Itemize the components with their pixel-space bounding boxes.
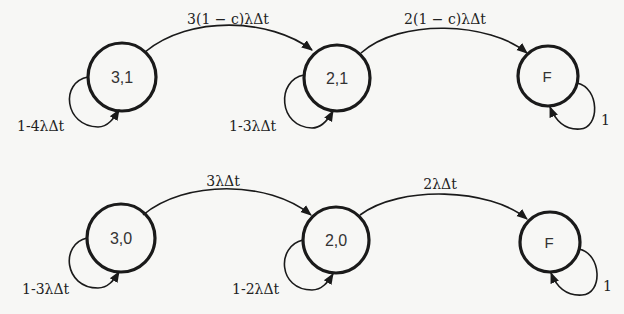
edge-3-0-to-2-0 <box>143 189 311 215</box>
loop-label-f-top: 1 <box>601 112 610 128</box>
loop-label-2-0: 1-2λΔt <box>232 281 280 297</box>
diagram-canvas: 3,1 2,1 F 3(1 − c)λΔt 2(1 − c)λΔt 1-4λΔt… <box>0 0 624 314</box>
node-label-3-0: 3,0 <box>110 230 132 247</box>
edge-2-0-to-f <box>360 194 527 219</box>
node-label-3-1: 3,1 <box>111 69 133 86</box>
edge-label-3-1-to-2-1: 3(1 − c)λΔt <box>187 11 269 27</box>
edge-label-2-1-to-f: 2(1 − c)λΔt <box>404 11 486 27</box>
markov-chain-diagram: 3,1 2,1 F 3(1 − c)λΔt 2(1 − c)λΔt 1-4λΔt… <box>0 0 624 314</box>
loop-label-f-bottom: 1 <box>603 278 612 294</box>
node-label-2-0: 2,0 <box>325 232 347 249</box>
edge-3-1-to-2-1 <box>145 25 312 52</box>
loop-label-3-0: 1-3λΔt <box>22 281 70 297</box>
node-label-2-1: 2,1 <box>326 70 348 87</box>
node-label-f-bottom: F <box>544 234 553 251</box>
edge-label-2-0-to-f: 2λΔt <box>423 176 457 192</box>
edge-label-3-0-to-2-0: 3λΔt <box>206 173 240 189</box>
node-label-f-top: F <box>542 68 551 85</box>
edge-2-1-to-f <box>361 28 527 53</box>
loop-label-2-1: 1-3λΔt <box>229 118 277 134</box>
loop-label-3-1: 1-4λΔt <box>17 118 65 134</box>
